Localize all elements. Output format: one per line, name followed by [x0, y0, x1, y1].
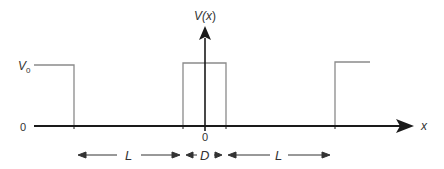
v0-level-label: V0 — [18, 59, 31, 75]
x-axis-label: x — [420, 119, 428, 133]
x-axis — [34, 119, 414, 133]
y-axis-label: V(x) — [194, 9, 216, 23]
dimension-d-label: D — [200, 148, 209, 163]
arrow-left-icon — [228, 152, 236, 158]
potential-diagram: V(x) x V0 0 0 L D L — [0, 0, 444, 169]
origin-label: 0 — [202, 131, 208, 143]
potential-profile — [34, 62, 370, 126]
y-axis — [199, 26, 211, 131]
y-axis-arrowhead-icon — [199, 26, 211, 40]
left-barrier — [34, 65, 74, 126]
arrow-left-icon — [78, 152, 86, 158]
arrow-right-icon — [215, 152, 222, 158]
dimension-l-right-label: L — [275, 148, 282, 163]
zero-level-label: 0 — [20, 121, 26, 133]
dimension-l-left-label: L — [125, 148, 132, 163]
arrow-left-icon — [186, 152, 193, 158]
arrow-right-icon — [322, 152, 330, 158]
right-barrier — [335, 62, 370, 126]
arrow-right-icon — [172, 152, 180, 158]
